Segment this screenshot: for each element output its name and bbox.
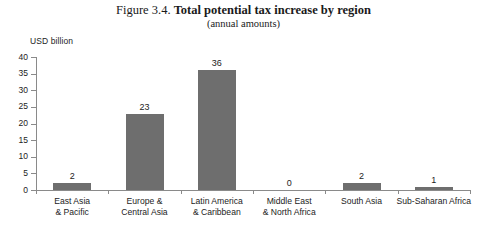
y-tick [31,90,36,91]
x-tick [181,190,182,194]
bar-value-label: 2 [342,171,382,181]
bar [415,187,453,190]
bar-value-label: 1 [414,175,454,185]
bar [343,183,381,190]
y-tick-label: 10 [12,152,28,161]
x-tick [253,190,254,194]
x-category-label: East Asia & Pacific [32,196,112,217]
y-tick [31,124,36,125]
x-category-label: South Asia [321,196,401,207]
x-tick [108,190,109,194]
bar-value-label: 2 [52,171,92,181]
y-tick-label: 40 [12,53,28,62]
x-category-label: Europe & Central Asia [104,196,184,217]
y-tick [31,107,36,108]
y-axis-line [36,57,37,190]
x-tick [36,190,37,194]
y-tick-label: 20 [12,119,28,128]
y-tick [31,57,36,58]
y-tick-label: 35 [12,69,28,78]
y-tick [31,157,36,158]
x-category-label: Sub-Saharan Africa [394,196,474,207]
x-tick [325,190,326,194]
y-tick [31,140,36,141]
bar-value-label: 0 [269,178,309,188]
y-tick [31,173,36,174]
x-category-label: Middle East & North Africa [249,196,329,217]
x-category-label: Latin America & Caribbean [177,196,257,217]
bar-value-label: 23 [125,102,165,112]
x-tick [470,190,471,194]
bar [53,183,91,190]
x-tick [398,190,399,194]
y-tick-label: 25 [12,102,28,111]
y-tick [31,74,36,75]
bar [126,114,164,190]
y-tick-label: 15 [12,136,28,145]
y-tick-label: 5 [12,169,28,178]
bar [198,70,236,190]
bar-value-label: 36 [197,58,237,68]
y-tick-label: 30 [12,86,28,95]
bar-chart: 0510152025303540 22336021 East Asia & Pa… [0,0,487,235]
y-tick-label: 0 [12,186,28,195]
